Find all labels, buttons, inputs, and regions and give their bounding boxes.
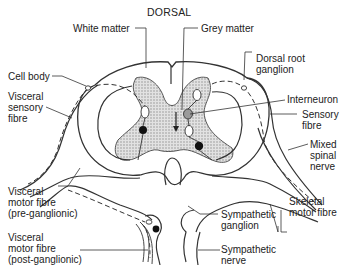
label-line: ganglion	[221, 220, 276, 231]
label-line: (post-ganglionic)	[8, 254, 82, 265]
right-sympathetic-nerve	[197, 232, 200, 265]
dorsal-title: DORSAL	[147, 7, 191, 18]
label-line: Sensory	[302, 109, 339, 120]
label-visceral-sensory-fibre: Visceral sensory fibre	[8, 91, 43, 124]
label-mixed-spinal-nerve: Mixed spinal nerve	[310, 139, 337, 172]
label-line: nerve	[310, 161, 337, 172]
visceral-motor-pre-fibre	[68, 190, 145, 222]
cell-body-drg-left	[85, 86, 90, 90]
skeletal-motor-line	[281, 210, 287, 232]
label-dorsal-root-ganglion: Dorsal root ganglion	[256, 53, 305, 75]
ventral-fissure	[165, 158, 182, 185]
label-interneuron: Interneuron	[287, 94, 338, 105]
right-neuron-open-top	[193, 90, 201, 101]
label-visceral-motor-post: Visceral motor fibre (post-ganglionic)	[8, 232, 82, 265]
label-line: Sympathetic	[221, 244, 276, 255]
label-cell-body: Cell body	[8, 71, 50, 82]
grey-matter	[115, 77, 233, 162]
label-line: nerve	[221, 255, 276, 266]
spinal-cord-diagram	[0, 0, 346, 267]
label-line: motor fibre	[8, 197, 77, 208]
label-line: motor fibre	[8, 243, 82, 254]
right-neuron-open-bottom	[185, 126, 193, 137]
label-line: fibre	[302, 120, 339, 131]
label-line: (pre-ganglionic)	[8, 208, 77, 219]
label-line: Mixed	[310, 139, 337, 150]
visceral-sensory-leader	[46, 107, 72, 118]
label-line: ganglion	[256, 64, 305, 75]
mixed-nerve-leader	[288, 144, 308, 150]
label-line: motor fibre	[289, 207, 337, 218]
label-line: Visceral	[8, 232, 82, 243]
label-sympathetic-ganglion: Sympathetic ganglion	[221, 209, 276, 231]
label-line: fibre	[8, 113, 43, 124]
label-white-matter: White matter	[73, 23, 130, 34]
label-line: Skeletal	[289, 196, 337, 207]
right-motor-neuron	[195, 142, 203, 150]
label-line: Visceral	[8, 186, 77, 197]
cell-body-drg-right	[241, 86, 246, 90]
label-skeletal-motor-fibre: Skeletal motor fibre	[289, 196, 337, 218]
ganglion-cell-open	[146, 220, 152, 224]
left-motor-neuron	[139, 126, 147, 134]
label-visceral-motor-pre: Visceral motor fibre (pre-ganglionic)	[8, 186, 77, 219]
label-line: sensory	[8, 102, 43, 113]
label-grey-matter: Grey matter	[201, 23, 254, 34]
label-sensory-fibre: Sensory fibre	[302, 109, 339, 131]
white-matter-leader	[135, 28, 146, 68]
label-line: Visceral	[8, 91, 43, 102]
ganglion-neuron-filled	[153, 226, 160, 233]
left-neuron-open	[141, 106, 149, 118]
label-line: Sympathetic	[221, 209, 276, 220]
label-line: Dorsal root	[256, 53, 305, 64]
cell-body-leader	[52, 76, 86, 86]
label-sympathetic-nerve: Sympathetic nerve	[221, 244, 276, 266]
label-line: spinal	[310, 150, 337, 161]
right-sympathetic-ganglion	[181, 210, 194, 262]
